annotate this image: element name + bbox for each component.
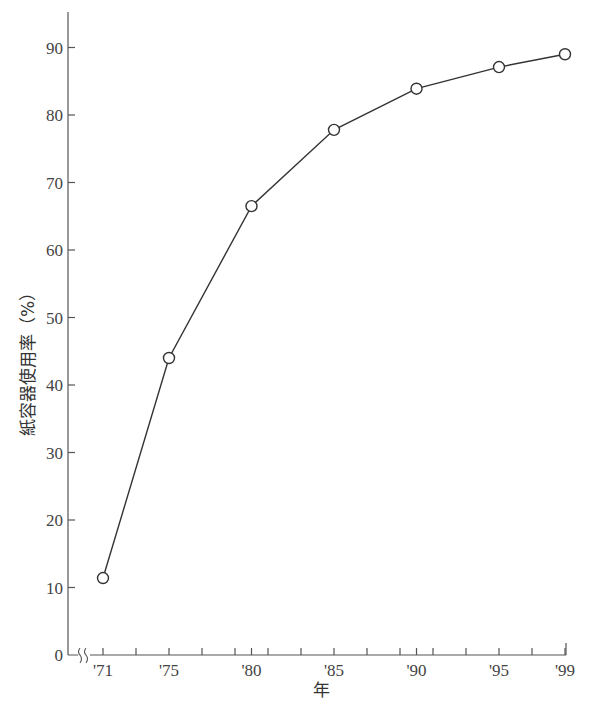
x-tick-label: '80 <box>241 661 261 680</box>
x-axis-title: 年 <box>313 680 330 700</box>
data-point-marker <box>98 573 109 584</box>
x-tick-label: '95 <box>489 661 509 680</box>
y-tick-label: 60 <box>46 241 63 260</box>
x-tick-label: '75 <box>159 661 179 680</box>
y-tick-label: 50 <box>46 309 63 328</box>
y-axis: 0102030405060708090 <box>46 12 75 665</box>
x-tick-label: '99 <box>555 661 575 680</box>
data-series <box>98 49 571 584</box>
x-axis: '71'75'80'85'90'95'99 <box>68 643 575 680</box>
data-point-marker <box>164 353 175 364</box>
y-axis-title: 紙容器使用率（%） <box>18 284 38 436</box>
x-tick-label: '85 <box>324 661 344 680</box>
y-tick-label: 90 <box>46 39 63 58</box>
y-tick-label: 10 <box>46 579 63 598</box>
y-tick-label: 70 <box>46 174 63 193</box>
axis-break-icon <box>78 647 90 663</box>
data-point-marker <box>560 49 571 60</box>
data-point-marker <box>411 83 422 94</box>
y-tick-label: 40 <box>46 376 63 395</box>
x-tick-label: '90 <box>406 661 426 680</box>
data-point-marker <box>246 201 257 212</box>
y-tick-label: 80 <box>46 106 63 125</box>
y-tick-label: 0 <box>55 646 64 665</box>
data-point-marker <box>494 62 505 73</box>
data-point-marker <box>329 124 340 135</box>
y-tick-label: 30 <box>46 444 63 463</box>
line-chart: 0102030405060708090 '71'75'80'85'90'95'9… <box>0 0 590 711</box>
y-tick-label: 20 <box>46 511 63 530</box>
x-tick-label: '71 <box>93 661 113 680</box>
